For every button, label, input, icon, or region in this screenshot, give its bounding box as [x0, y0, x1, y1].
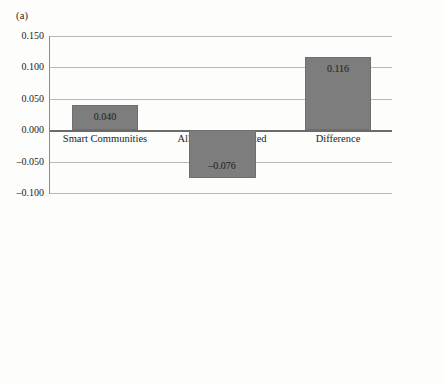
y-tick-label: 0.050: [4, 94, 44, 104]
y-tick-label: –0.050: [4, 157, 44, 167]
bar-value-label: 0.116: [298, 64, 378, 74]
gridline: [50, 193, 392, 194]
panel-a-plot-area: 0.1500.1000.0500.000–0.050–0.100Smart Co…: [50, 36, 392, 193]
y-tick-label: 0.150: [4, 31, 44, 41]
panel-a-label: (a): [16, 10, 28, 21]
bar-value-label: 0.040: [65, 112, 145, 122]
category-label: Difference: [258, 133, 418, 145]
category-label-line: Difference: [258, 133, 418, 145]
chart-panel-b: (b) 0.2000.1800.1600.1400.1200.1000.0800…: [0, 196, 444, 383]
bar-value-label: –0.076: [182, 161, 262, 171]
gridline: [50, 36, 392, 37]
chart-panel-a: (a) 0.1500.1000.0500.000–0.050–0.100Smar…: [0, 0, 444, 196]
y-tick-label: 0.100: [4, 62, 44, 72]
